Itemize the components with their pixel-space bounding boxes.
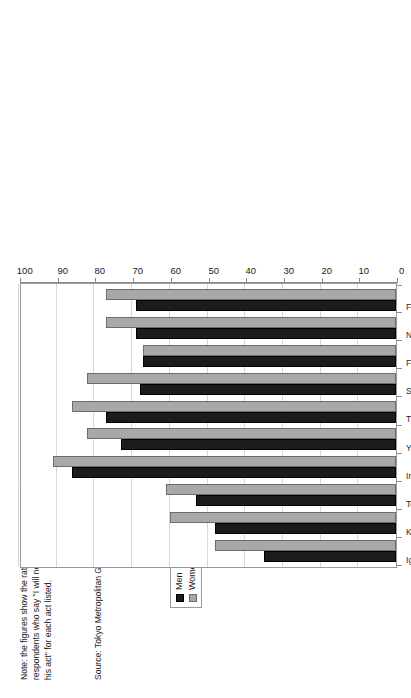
bar-series-container — [21, 284, 396, 567]
bar-group — [21, 481, 396, 509]
value-tick-label: 20 — [321, 266, 332, 276]
value-tick — [359, 278, 360, 283]
bar-group — [21, 342, 396, 370]
legend-swatch-men-icon — [176, 594, 184, 602]
bar-women — [106, 317, 396, 328]
category-tick — [397, 426, 403, 454]
category-label: Slapping — [406, 387, 411, 395]
bar-men — [143, 356, 396, 367]
category-tick — [397, 454, 403, 482]
plot-area — [20, 283, 397, 568]
bar-women — [106, 289, 396, 300]
value-tick-label: 70 — [133, 266, 144, 276]
value-tick-label: 90 — [57, 266, 68, 276]
bar-men — [196, 495, 396, 506]
bar-group — [21, 537, 396, 565]
category-label: Telling wife not to go out when he is at… — [406, 500, 411, 508]
bar-women — [166, 484, 396, 495]
category-tick — [397, 369, 403, 397]
category-label: Threatening with fist — [406, 415, 411, 423]
category-label: Forcing wife to watch or read pornograph… — [406, 359, 411, 367]
bar-group — [21, 314, 396, 342]
category-label: Not cooperating with contraception — [406, 331, 411, 339]
bar-group — [21, 370, 396, 398]
bar-women — [87, 428, 396, 439]
bar-group — [21, 509, 396, 537]
bar-group — [21, 425, 396, 453]
value-tick-label: 80 — [95, 266, 106, 276]
value-tick — [171, 278, 172, 283]
value-tick — [20, 278, 21, 283]
rotated-figure-canvas: Note: the figures show the ratio as a pe… — [0, 0, 411, 698]
category-tick — [397, 313, 403, 341]
value-tick-label: 50 — [208, 266, 219, 276]
category-axis-ticks — [397, 283, 403, 568]
value-tick — [397, 278, 398, 283]
bar-men — [72, 467, 396, 478]
bar-men — [264, 551, 396, 562]
category-tick — [397, 510, 403, 538]
category-label: Intentionally breaking or throwing away … — [406, 472, 411, 480]
bar-group — [21, 398, 396, 426]
value-tick-label: 0 — [399, 266, 404, 276]
value-tick — [284, 278, 285, 283]
value-tick-label: 60 — [170, 266, 181, 276]
bar-men — [215, 523, 396, 534]
bar-women — [72, 401, 396, 412]
value-tick-label: 30 — [283, 266, 294, 276]
value-tick — [209, 278, 210, 283]
bar-women — [53, 456, 396, 467]
category-tick — [397, 482, 403, 510]
bar-men — [121, 439, 396, 450]
category-tick — [397, 341, 403, 369]
category-label: Forcing sexual acts by threat or violenc… — [406, 303, 411, 311]
value-tick-label: 40 — [246, 266, 257, 276]
bar-men — [136, 328, 396, 339]
bar-group — [21, 286, 396, 314]
value-tick — [246, 278, 247, 283]
bar-men — [140, 384, 396, 395]
bar-women — [170, 512, 396, 523]
value-tick — [133, 278, 134, 283]
value-tick-label: 10 — [359, 266, 370, 276]
value-tick — [322, 278, 323, 283]
value-tick-label: 100 — [17, 266, 33, 276]
bar-women — [215, 540, 396, 551]
bar-men — [136, 300, 396, 311]
category-tick — [397, 285, 403, 313]
bar-men — [106, 412, 396, 423]
category-tick — [397, 397, 403, 425]
legend-swatch-women-icon — [189, 594, 197, 602]
legend-label-men: Men — [175, 572, 184, 590]
value-tick — [95, 278, 96, 283]
bar-women — [87, 373, 396, 384]
bar-women — [143, 345, 396, 356]
category-tick — [397, 538, 403, 566]
bar-chart-figure: Note: the figures show the ratio as a pe… — [0, 0, 411, 698]
value-tick — [58, 278, 59, 283]
category-label: Ignoring wife whatever she says — [406, 556, 411, 564]
category-label: Keeping close watch on wife's friends an… — [406, 528, 411, 536]
category-label: Yelling at wife "who provides you with f… — [406, 444, 411, 452]
bar-group — [21, 453, 396, 481]
